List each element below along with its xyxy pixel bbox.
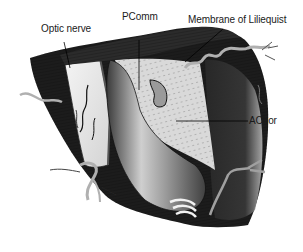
anatomical-illustration: Optic nerve PComm Membrane of Liliequist… xyxy=(0,0,303,252)
label-achor: AChor xyxy=(249,115,277,126)
label-optic-nerve: Optic nerve xyxy=(41,23,91,34)
label-pcomm: PComm xyxy=(122,11,158,22)
illustration-artwork xyxy=(0,0,303,252)
label-membrane-of-liliequist: Membrane of Liliequist xyxy=(188,14,286,25)
